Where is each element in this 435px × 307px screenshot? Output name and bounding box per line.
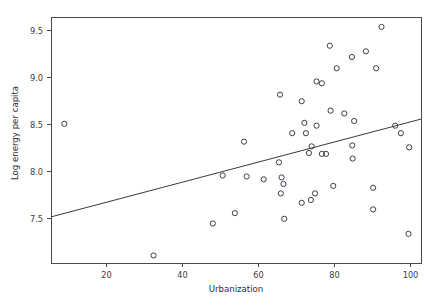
- data-point: [314, 123, 319, 128]
- regression-line-segment: [51, 119, 421, 217]
- data-point: [312, 191, 317, 196]
- data-point: [350, 143, 355, 148]
- data-point: [302, 120, 307, 125]
- data-point: [306, 150, 311, 155]
- y-tick-label: 9.5: [30, 26, 43, 36]
- data-point: [349, 54, 354, 59]
- y-axis-title: Log energy per capita: [10, 86, 20, 180]
- y-axis-ticks: [47, 31, 51, 219]
- data-point: [62, 121, 67, 126]
- data-point: [151, 253, 156, 258]
- regression-line: [51, 119, 421, 217]
- data-point: [276, 160, 281, 165]
- data-point: [334, 66, 339, 71]
- data-point: [363, 49, 368, 54]
- data-point: [342, 111, 347, 116]
- data-point: [277, 92, 282, 97]
- x-tick-label: 80: [329, 270, 339, 280]
- data-point: [299, 99, 304, 104]
- data-point: [303, 131, 308, 136]
- data-point: [261, 177, 266, 182]
- x-axis-tick-labels: 20406080100: [101, 270, 418, 280]
- chart-canvas: 20406080100 7.58.08.59.09.5 Urbanization…: [0, 0, 435, 307]
- data-point: [406, 231, 411, 236]
- data-point: [241, 139, 246, 144]
- data-point: [220, 173, 225, 178]
- data-point: [398, 131, 403, 136]
- data-point: [371, 185, 376, 190]
- data-point: [308, 197, 313, 202]
- data-points: [62, 24, 412, 258]
- data-point: [314, 79, 319, 84]
- data-point: [232, 211, 237, 216]
- data-point: [299, 200, 304, 205]
- data-point: [282, 216, 287, 221]
- y-tick-label: 9.0: [30, 73, 43, 83]
- data-point: [279, 175, 284, 180]
- scatter-plot-figure: 20406080100 7.58.08.59.09.5 Urbanization…: [0, 0, 435, 307]
- y-tick-label: 8.0: [30, 167, 43, 177]
- x-tick-label: 40: [177, 270, 187, 280]
- data-point: [290, 131, 295, 136]
- data-point: [374, 66, 379, 71]
- data-point: [407, 145, 412, 150]
- data-point: [281, 181, 286, 186]
- data-point: [319, 81, 324, 86]
- x-axis-ticks: [107, 263, 411, 267]
- y-axis-tick-labels: 7.58.08.59.09.5: [30, 26, 43, 224]
- data-point: [371, 207, 376, 212]
- data-point: [278, 191, 283, 196]
- data-point: [331, 183, 336, 188]
- data-point: [210, 221, 215, 226]
- x-tick-label: 100: [403, 270, 419, 280]
- data-point: [350, 156, 355, 161]
- data-point: [244, 174, 249, 179]
- x-tick-label: 60: [253, 270, 263, 280]
- data-point: [352, 118, 357, 123]
- x-tick-label: 20: [101, 270, 111, 280]
- data-point: [328, 108, 333, 113]
- x-axis-title: Urbanization: [209, 284, 264, 294]
- y-tick-label: 7.5: [30, 214, 43, 224]
- data-point: [379, 24, 384, 29]
- y-tick-label: 8.5: [30, 120, 43, 130]
- data-point: [327, 43, 332, 48]
